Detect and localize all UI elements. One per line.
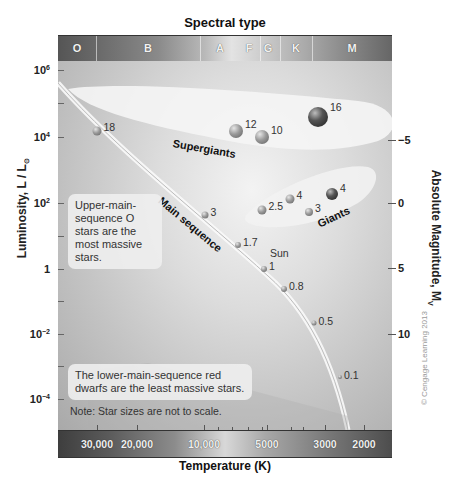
luminosity-minor-tick <box>58 301 64 302</box>
magnitude-tick-label: 5 <box>398 262 404 274</box>
spectral-type-b: B <box>144 42 152 54</box>
temperature-minor-tick <box>218 427 219 430</box>
temperature-tick-label: 5000 <box>255 438 278 450</box>
magnitude-tick-label: 10 <box>398 328 410 340</box>
main_sequence-star-mass-label: 1.7 <box>243 236 258 248</box>
copyright-text: © Cengage Learning 2013 <box>420 311 429 405</box>
luminosity-tick-mark <box>58 399 64 400</box>
main_sequence-star <box>202 212 209 219</box>
supergiants-star <box>308 107 328 127</box>
magnitude-tick-mark <box>388 140 396 141</box>
temperature-tick-label: 10,000 <box>188 438 220 450</box>
giants-star <box>258 206 267 215</box>
luminosity-tick-mark <box>58 334 64 335</box>
temperature-tick-mark <box>137 425 138 430</box>
lower-main-sequence-note: The lower-main-sequence red dwarfs are t… <box>68 364 252 400</box>
sun-label: Sun <box>270 247 289 259</box>
luminosity-tick-label: 1 <box>44 263 50 275</box>
luminosity-tick-label: 10−4 <box>30 393 50 406</box>
main_sequence-star-mass-label: 0.5 <box>319 315 334 327</box>
giants-star-mass-label: 2.5 <box>269 200 284 212</box>
luminosity-tick-mark <box>58 203 64 204</box>
spectral-type-m: M <box>347 42 356 54</box>
temperature-tick-mark <box>97 425 98 430</box>
scale-note: Note: Star sizes are not to scale. <box>70 405 222 417</box>
temperature-minor-tick <box>291 427 292 430</box>
temperature-tick-label: 20,000 <box>121 438 153 450</box>
spectral-type-bar: OBAFGKM <box>58 35 392 63</box>
luminosity-tick-label: 104 <box>34 131 50 144</box>
spectral-divider <box>96 36 97 62</box>
temperature-axis-title: Temperature (K) <box>0 459 450 473</box>
magnitude-tick-label: −5 <box>398 134 411 146</box>
giants-star <box>286 195 295 204</box>
spectral-type-title: Spectral type <box>0 15 450 30</box>
spectral-type-o: O <box>73 42 82 54</box>
temperature-minor-tick <box>232 427 233 430</box>
main_sequence-star <box>338 375 342 379</box>
temperature-tick-mark <box>325 425 326 430</box>
spectral-divider <box>312 36 313 62</box>
main_sequence-star-mass-label: 1 <box>269 260 275 272</box>
supergiants-star-mass-label: 16 <box>330 101 342 113</box>
giants-star-mass-label: 4 <box>297 189 303 201</box>
temperature-minor-tick <box>248 427 249 430</box>
temperature-tick-mark <box>204 425 205 430</box>
supergiants-star <box>255 130 269 144</box>
spectral-divider <box>200 36 201 62</box>
luminosity-tick-mark <box>58 269 64 270</box>
spectral-type-a: A <box>216 42 224 54</box>
magnitude-tick-label: 0 <box>398 197 404 209</box>
luminosity-tick-label: 10−2 <box>30 328 50 341</box>
luminosity-minor-tick <box>58 366 64 367</box>
supergiants-star <box>229 124 243 138</box>
main_sequence-star <box>235 242 241 248</box>
luminosity-minor-tick <box>58 236 64 237</box>
upper-main-sequence-note: Upper-main-sequence O stars are the most… <box>68 194 162 269</box>
spectral-type-g: G <box>264 42 273 54</box>
temperature-minor-tick <box>262 427 263 430</box>
luminosity-tick-label: 102 <box>34 197 50 210</box>
giants-star-mass-label: 4 <box>340 182 346 194</box>
main_sequence-star-mass-label: 0.1 <box>344 369 359 381</box>
luminosity-minor-tick <box>58 103 64 104</box>
luminosity-tick-mark <box>58 70 64 71</box>
temperature-tick-mark <box>267 425 268 430</box>
spectral-divider <box>280 36 281 62</box>
spectral-type-f: F <box>246 42 253 54</box>
main_sequence-star <box>261 266 267 272</box>
temperature-tick-label: 3000 <box>313 438 336 450</box>
supergiants-star-mass-label: 10 <box>271 124 283 136</box>
main_sequence-star <box>312 321 317 326</box>
magnitude-axis-title: Absolute Magnitude, MV <box>427 153 442 323</box>
main_sequence-star-mass-label: 0.8 <box>289 280 304 292</box>
main_sequence-star-mass-label: 3 <box>211 206 217 218</box>
giants-region <box>245 166 376 227</box>
main_sequence-star <box>281 286 287 292</box>
luminosity-tick-mark <box>58 137 64 138</box>
giants-star-mass-label: 3 <box>315 202 321 214</box>
main_sequence-star-mass-label: 18 <box>104 121 116 133</box>
luminosity-axis-title: Luminosity, L / L⊙ <box>15 123 31 293</box>
magnitude-tick-mark <box>388 334 396 335</box>
main_sequence-star <box>93 127 102 136</box>
temperature-bar: 30,00020,00010,000500030002000 <box>58 430 392 458</box>
temperature-tick-label: 30,000 <box>81 438 113 450</box>
temperature-minor-tick <box>303 427 304 430</box>
supergiants-star-mass-label: 12 <box>245 118 257 130</box>
magnitude-tick-mark <box>388 203 396 204</box>
magnitude-tick-mark <box>388 268 396 269</box>
temperature-tick-mark <box>364 425 365 430</box>
temperature-tick-label: 2000 <box>352 438 375 450</box>
luminosity-tick-label: 106 <box>34 64 50 77</box>
spectral-type-k: K <box>292 42 300 54</box>
giants-star <box>326 188 338 200</box>
giants-star <box>305 208 313 216</box>
spectral-divider <box>260 36 261 62</box>
